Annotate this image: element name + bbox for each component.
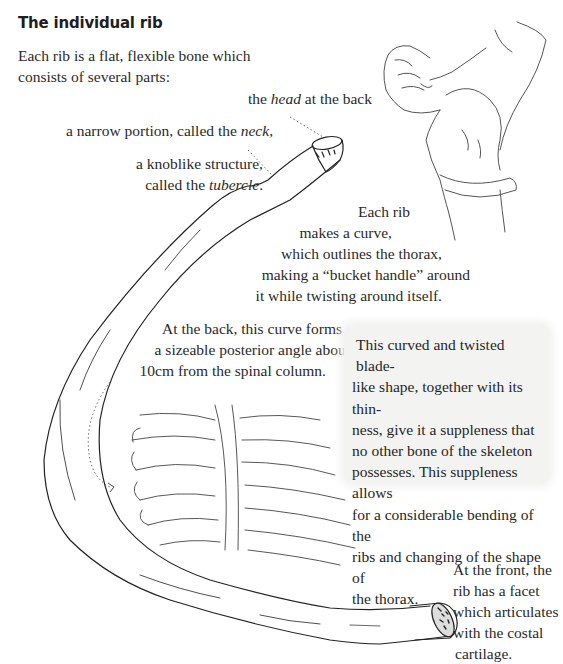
label-tubercle-term: tubercle [209, 176, 259, 193]
label-curve-line4: making a “bucket handle” around [230, 264, 470, 285]
head-leader-line [290, 117, 323, 137]
intro-text: Each rib is a flat, flexible bone which … [18, 45, 278, 87]
label-head: the head at the back [248, 88, 372, 109]
label-tubercle: a knoblike structure, called the tubercl… [78, 153, 263, 195]
label-back-line2: a sizeable posterior angle about [110, 339, 350, 360]
sidebar-note-box: This curved and twisted blade- like shap… [344, 324, 549, 484]
label-neck-prefix: a narrow portion, called the [66, 122, 241, 139]
sidebar-line: for a considerable bending of the [352, 504, 543, 546]
label-head-suffix: at the back [301, 90, 372, 107]
label-tubercle-suffix: . [259, 176, 263, 193]
section-heading: The individual rib [18, 14, 163, 32]
label-curve-line1: Each rib [230, 201, 470, 222]
label-front-facet: At the front, the rib has a facet which … [453, 559, 563, 664]
label-tubercle-line1: a knoblike structure, [78, 153, 263, 174]
label-neck: a narrow portion, called the neck, [18, 120, 273, 141]
sidebar-line: ness, give it a suppleness that [352, 419, 543, 440]
label-back-line1: At the back, this curve forms [110, 318, 350, 339]
label-head-prefix: the [248, 90, 271, 107]
sidebar-line: no other bone of the skeleton [352, 440, 543, 461]
label-front-line2: rib has a facet [453, 580, 563, 601]
sidebar-line: possesses. This suppleness allows [352, 461, 543, 503]
thoracic-spine-drawing [131, 405, 355, 565]
label-front-line4: with the costal [453, 622, 563, 643]
label-tubercle-prefix: called the [145, 176, 209, 193]
label-front-line3: which articulates [453, 601, 563, 622]
label-tubercle-line2: called the tubercle. [78, 174, 263, 195]
label-front-line5: cartilage. [453, 643, 563, 664]
arrow-head-icon [108, 483, 114, 492]
label-head-term: head [271, 90, 301, 107]
label-curve-line5: it while twisting around itself. [230, 285, 470, 306]
label-front-line1: At the front, the [453, 559, 563, 580]
label-curve: Each rib makes a curve, which outlines t… [230, 201, 470, 306]
label-neck-suffix: , [269, 122, 273, 139]
label-curve-line2: makes a curve, [230, 222, 470, 243]
label-back-line3: 10cm from the spinal column. [110, 360, 350, 381]
label-posterior-angle: At the back, this curve forms a sizeable… [110, 318, 350, 381]
sidebar-line: like shape, together with its thin- [352, 376, 543, 418]
label-neck-term: neck [241, 122, 269, 139]
label-curve-line3: which outlines the thorax, [230, 243, 470, 264]
sidebar-line: This curved and twisted blade- [352, 334, 543, 376]
